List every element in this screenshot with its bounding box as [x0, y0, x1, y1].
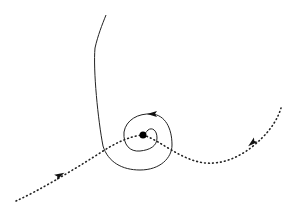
- phase-portrait-diagram: [0, 0, 295, 211]
- spiral-top-arrow-icon: [147, 111, 157, 117]
- fixed-point: [140, 132, 147, 139]
- spiral-trajectory: [95, 15, 172, 170]
- unstable-manifold-right: [143, 108, 281, 163]
- left-manifold-arrow-icon: [54, 170, 66, 180]
